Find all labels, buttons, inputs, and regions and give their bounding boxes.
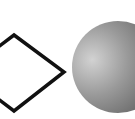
shapes-canvas	[0, 0, 135, 119]
diamond-outline-shape	[0, 35, 64, 111]
shapes-scene	[0, 0, 135, 119]
gray-sphere-shape	[72, 21, 135, 113]
